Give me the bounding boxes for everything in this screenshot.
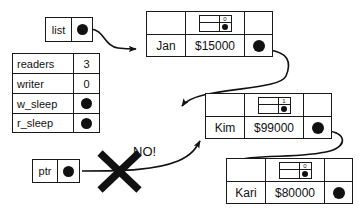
- mutex-cell-left-bottom: [280, 170, 300, 178]
- pointer-dot-icon: [312, 122, 324, 134]
- diagram-canvas: list readers 3 writer 0 w_sleep r_sleep: [0, 0, 359, 214]
- node-amount-kari: $80000: [266, 181, 325, 204]
- list-node-kim[interactable]: 1 Kim $99000: [205, 93, 332, 139]
- pointer-dot-icon: [302, 171, 308, 177]
- annotation-label-no: NO!: [133, 144, 156, 159]
- status-value-writer: 0: [74, 73, 100, 93]
- list-node-kari[interactable]: 0 Kari $80000: [226, 158, 353, 204]
- mutex-mini-box: 1: [258, 97, 291, 114]
- mutex-wait-pointer: [279, 105, 290, 113]
- status-key-r-sleep: r_sleep: [12, 113, 74, 133]
- pointer-dot-icon: [81, 98, 92, 109]
- node-header-next-cell: [304, 93, 332, 116]
- mutex-row-bottom: [259, 105, 290, 113]
- pointer-label-ptr: ptr: [32, 159, 58, 183]
- pointer-box-ptr[interactable]: ptr: [32, 159, 80, 183]
- mutex-mini-box: 0: [199, 15, 232, 32]
- node-data-row: Jan $15000: [146, 34, 273, 57]
- node-mutex-cell: 1: [245, 93, 304, 116]
- table-row: readers 3: [12, 53, 100, 73]
- mutex-wait-pointer: [300, 170, 311, 178]
- mutex-cell-left-bottom: [259, 105, 279, 113]
- status-value-r-sleep: [74, 113, 100, 133]
- pointer-dot-icon: [222, 24, 228, 30]
- mutex-lock-count: 0: [300, 163, 311, 171]
- mutex-row-bottom: [200, 23, 231, 31]
- mutex-row-top: 0: [200, 16, 231, 24]
- node-header-next-cell: [245, 11, 273, 34]
- status-key-w-sleep: w_sleep: [12, 93, 74, 113]
- pointer-dot-icon: [253, 40, 265, 52]
- node-next-pointer-jan: [245, 34, 273, 57]
- pointer-box-list[interactable]: list: [45, 17, 93, 42]
- node-next-pointer-kari: [325, 181, 353, 204]
- mutex-row-top: 0: [280, 163, 311, 171]
- mutex-cell-left-top: [259, 98, 279, 106]
- node-amount-jan: $15000: [186, 34, 245, 57]
- pointer-label-list: list: [45, 17, 72, 42]
- node-header-name-cell: [205, 93, 245, 116]
- pointer-dot-icon: [77, 24, 88, 35]
- status-value-readers: 3: [74, 53, 100, 73]
- node-mutex-cell: 0: [186, 11, 245, 34]
- pointer-dot-icon: [63, 166, 74, 177]
- table-row: r_sleep: [12, 113, 100, 133]
- node-header-row: 1: [205, 93, 332, 116]
- status-table: readers 3 writer 0 w_sleep r_sleep: [12, 53, 100, 133]
- node-header-name-cell: [226, 158, 266, 181]
- status-value-w-sleep: [74, 93, 100, 113]
- table-row: w_sleep: [12, 93, 100, 113]
- pointer-dot-icon: [333, 187, 345, 199]
- node-header-next-cell: [325, 158, 353, 181]
- node-header-row: 0: [226, 158, 353, 181]
- pointer-dot-icon: [281, 106, 287, 112]
- mutex-lock-count: 0: [220, 16, 231, 24]
- mutex-lock-count: 1: [279, 98, 290, 106]
- node-mutex-cell: 0: [266, 158, 325, 181]
- mutex-cell-left-bottom: [200, 23, 220, 31]
- pointer-slot-list: [72, 17, 93, 42]
- node-name-kari: Kari: [226, 181, 266, 204]
- mutex-mini-box: 0: [279, 162, 312, 179]
- node-data-row: Kari $80000: [226, 181, 353, 204]
- node-next-pointer-kim: [304, 116, 332, 139]
- node-name-jan: Jan: [146, 34, 186, 57]
- mutex-wait-pointer: [220, 23, 231, 31]
- status-key-writer: writer: [12, 73, 74, 93]
- pointer-slot-ptr: [58, 159, 80, 183]
- table-row: writer 0: [12, 73, 100, 93]
- arrow-list-to-jan: [90, 29, 136, 49]
- mutex-row-bottom: [280, 170, 311, 178]
- node-data-row: Kim $99000: [205, 116, 332, 139]
- mutex-cell-left-top: [200, 16, 220, 24]
- node-name-kim: Kim: [205, 116, 245, 139]
- list-node-jan[interactable]: 0 Jan $15000: [146, 11, 273, 57]
- mutex-cell-left-top: [280, 163, 300, 171]
- node-header-name-cell: [146, 11, 186, 34]
- node-amount-kim: $99000: [245, 116, 304, 139]
- node-header-row: 0: [146, 11, 273, 34]
- pointer-dot-icon: [81, 118, 92, 129]
- mutex-row-top: 1: [259, 98, 290, 106]
- status-key-readers: readers: [12, 53, 74, 73]
